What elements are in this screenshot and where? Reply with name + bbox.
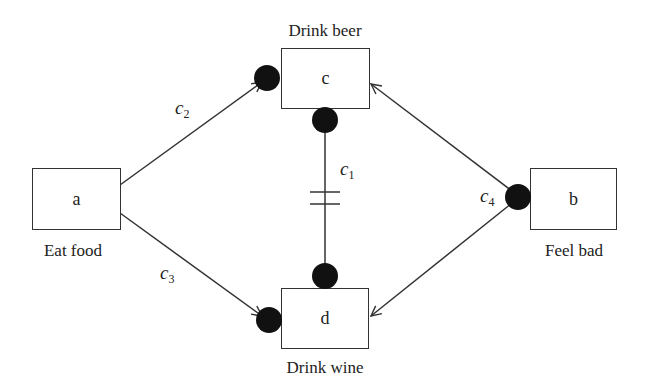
caption-drink-beer: Drink beer bbox=[288, 21, 361, 41]
dot-b-left bbox=[505, 184, 531, 210]
dot-d-left bbox=[256, 307, 282, 333]
edge-label-c4: c4 bbox=[480, 185, 494, 210]
edge-c4-to-c-line bbox=[371, 84, 512, 191]
caption-drink-wine: Drink wine bbox=[287, 358, 364, 378]
node-c-label: c bbox=[322, 68, 330, 89]
edge-label-c1: c1 bbox=[340, 158, 354, 183]
dot-c-left bbox=[254, 65, 280, 91]
dot-d-top bbox=[312, 263, 338, 289]
edge-label-c3: c3 bbox=[160, 262, 174, 287]
edge-label-c2: c2 bbox=[175, 97, 189, 122]
edge-c2-line bbox=[120, 82, 262, 185]
node-a-label: a bbox=[73, 189, 81, 210]
edge-c4-to-d-line bbox=[371, 203, 512, 316]
edge-c3-line bbox=[120, 213, 262, 316]
dot-c-bottom bbox=[312, 107, 338, 133]
caption-eat-food: Eat food bbox=[44, 241, 102, 261]
node-b: b bbox=[530, 168, 617, 230]
caption-feel-bad: Feel bad bbox=[545, 241, 603, 261]
node-c: c bbox=[281, 48, 370, 109]
node-d: d bbox=[281, 288, 369, 349]
node-a: a bbox=[32, 168, 121, 230]
node-b-label: b bbox=[569, 189, 578, 210]
node-d-label: d bbox=[321, 308, 330, 329]
